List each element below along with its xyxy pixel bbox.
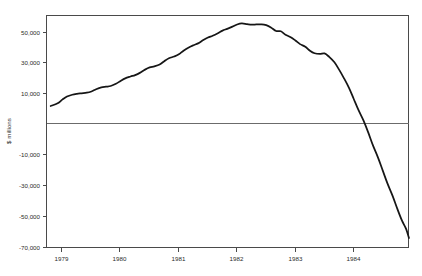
y-axis-title: $ millions xyxy=(5,118,12,144)
x-axis-ticks xyxy=(62,248,354,252)
x-tick-label-1: 1980 xyxy=(113,255,127,262)
x-tick-label-5: 1984 xyxy=(347,255,361,262)
y-tick-label-2: 10,000 xyxy=(21,90,40,97)
x-tick-label-2: 1981 xyxy=(172,255,186,262)
data-series-line xyxy=(51,23,409,238)
x-tick-label-3: 1982 xyxy=(230,255,244,262)
line-chart: 50,000 30,000 10,000 -10,000 -30,000 -50… xyxy=(0,0,422,276)
y-tick-label-3: -10,000 xyxy=(19,151,41,158)
y-tick-label-0: 50,000 xyxy=(21,29,40,36)
y-tick-label-1: 30,000 xyxy=(21,59,40,66)
chart-container: 50,000 30,000 10,000 -10,000 -30,000 -50… xyxy=(0,0,422,276)
plot-frame xyxy=(47,16,409,248)
x-tick-label-4: 1983 xyxy=(289,255,303,262)
y-axis-ticks xyxy=(43,33,47,248)
y-tick-label-6: -70,000 xyxy=(19,244,41,251)
x-axis-labels: 1979 1980 1981 1982 1983 1984 xyxy=(55,255,361,262)
y-tick-label-4: -30,000 xyxy=(19,182,41,189)
y-tick-label-5: -50,000 xyxy=(19,213,41,220)
x-tick-label-0: 1979 xyxy=(55,255,69,262)
y-axis-labels: 50,000 30,000 10,000 -10,000 -30,000 -50… xyxy=(19,29,41,251)
